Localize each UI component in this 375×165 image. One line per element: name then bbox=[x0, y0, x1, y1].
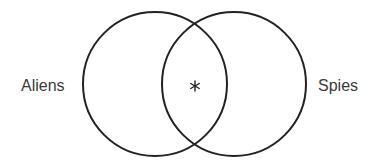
aliens-label: Aliens bbox=[21, 77, 65, 94]
spies-label: Spies bbox=[318, 77, 358, 94]
venn-diagram: Aliens Spies bbox=[0, 0, 375, 165]
spies-circle bbox=[162, 12, 306, 156]
asterisk-icon bbox=[191, 81, 200, 91]
aliens-circle bbox=[83, 12, 227, 156]
